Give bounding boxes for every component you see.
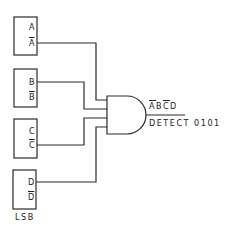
label-a: A <box>29 23 35 32</box>
label-d: D <box>28 178 34 187</box>
label-c: C <box>29 127 35 136</box>
flipflop-d-box <box>13 170 36 209</box>
expr-d: D <box>170 101 178 111</box>
label-c-bar: C <box>29 141 35 150</box>
circuit-diagram <box>0 0 235 233</box>
label-a-bar: A <box>29 39 35 48</box>
flipflop-c-box <box>14 119 37 158</box>
wire-d <box>36 127 107 182</box>
label-b: B <box>29 78 35 87</box>
expr-b: B <box>156 101 163 111</box>
wire-a-bar <box>37 43 107 100</box>
label-d-bar: D <box>28 193 34 202</box>
output-expression: ABCD <box>149 102 178 111</box>
expr-a-bar: A <box>149 101 156 111</box>
and-gate <box>107 96 146 134</box>
label-b-bar: B <box>29 93 35 102</box>
lsb-label: LSB <box>15 213 35 222</box>
detect-label: DETECT 0101 <box>149 119 221 128</box>
